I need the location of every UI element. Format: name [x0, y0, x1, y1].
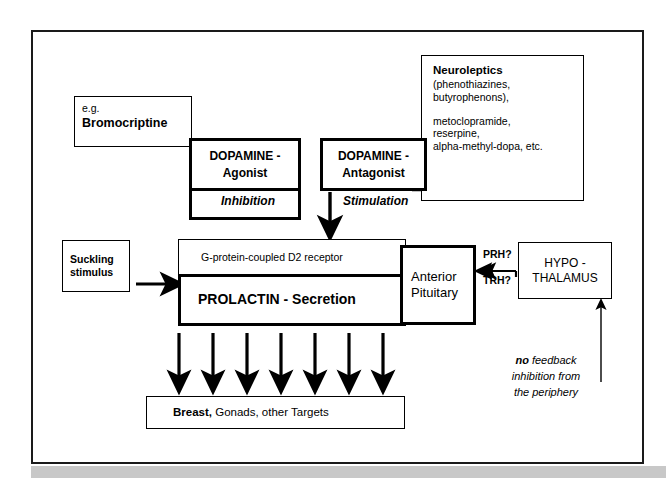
prolactin-secretion-label: PROLACTIN - Secretion [198, 291, 403, 308]
box-suckling-stimulus: Suckling stimulus [62, 240, 130, 292]
hypothalamus-line1: HYPO - [544, 256, 585, 271]
anterior-pituitary-line2: Pituitary [411, 285, 473, 301]
neuroleptics-line4: reserpine, [433, 127, 583, 140]
dopamine-antagonist-line2: Antagonist [342, 165, 405, 181]
no-feedback-note: no feedback inhibition from the peripher… [487, 353, 605, 401]
box-dopamine-agonist: DOPAMINE - Agonist [189, 138, 301, 191]
no-feedback-line1: no feedback [487, 353, 605, 369]
diagram-canvas: e.g. Bromocriptine DOPAMINE - Agonist DO… [0, 0, 666, 478]
inhibition-label: Inhibition [196, 194, 300, 208]
d2-receptor-label: G-protein-coupled D2 receptor [201, 251, 405, 264]
box-prolactin-secretion: PROLACTIN - Secretion [178, 274, 406, 326]
neuroleptics-spacer [433, 104, 583, 115]
bottom-gray-bar [31, 466, 666, 478]
dopamine-antagonist-line1: DOPAMINE - [338, 148, 409, 164]
trh-label: TRH? [483, 274, 511, 286]
box-d2-receptor: G-protein-coupled D2 receptor [178, 239, 406, 275]
neuroleptics-line2: butyrophenons), [433, 91, 583, 104]
no-feedback-line3: the periphery [487, 385, 605, 401]
suckling-line2: stimulus [70, 266, 113, 279]
stimulation-label: Stimulation [343, 194, 433, 208]
box-neuroleptics: Neuroleptics (phenothiazines, butyrophen… [421, 55, 584, 201]
anterior-pituitary-line1: Anterior [411, 269, 473, 285]
no-feedback-bold: no [515, 354, 528, 366]
box-hypothalamus: HYPO - THALAMUS [518, 242, 612, 299]
no-feedback-rest: feedback [529, 354, 577, 366]
targets-bold-label: Breast, [173, 406, 212, 418]
neuroleptics-line3: metoclopramide, [433, 115, 583, 128]
bromocriptine-eg-label: e.g. [82, 102, 191, 115]
neuroleptics-heading: Neuroleptics [433, 63, 583, 77]
targets-label: Breast, Gonads, other Targets [173, 405, 404, 419]
box-bromocriptine: e.g. Bromocriptine [74, 96, 192, 147]
prh-label: PRH? [483, 248, 512, 260]
box-targets: Breast, Gonads, other Targets [146, 396, 405, 429]
suckling-line1: Suckling [70, 253, 114, 266]
no-feedback-line2: inhibition from [487, 369, 605, 385]
neuroleptics-line5: alpha-methyl-dopa, etc. [433, 140, 583, 153]
dopamine-agonist-line2: Agonist [223, 165, 268, 181]
dopamine-agonist-line1: DOPAMINE - [209, 148, 280, 164]
hypothalamus-line2: THALAMUS [532, 271, 597, 286]
targets-rest-label: Gonads, other Targets [212, 406, 329, 418]
box-dopamine-antagonist: DOPAMINE - Antagonist [320, 138, 427, 191]
box-anterior-pituitary: Anterior Pituitary [400, 245, 476, 325]
bromocriptine-name-label: Bromocriptine [82, 116, 191, 131]
neuroleptics-line1: (phenothiazines, [433, 78, 583, 91]
